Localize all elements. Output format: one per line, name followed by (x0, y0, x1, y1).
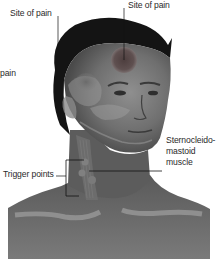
anatomy-figure: Site of pain Site of pain pain Sternocle… (0, 0, 218, 259)
label-sternocleidomastoid: Sternocleido- mastoid muscle (166, 135, 218, 168)
label-trigger-points: Trigger points (3, 169, 54, 180)
trigger-point-2 (79, 170, 86, 177)
label-muscle-line2: mastoid (166, 146, 218, 157)
pain-site-temple (75, 73, 97, 91)
label-site-of-pain-right: Site of pain (128, 0, 170, 11)
eye-left (114, 90, 126, 95)
label-muscle-line3: muscle (166, 157, 218, 168)
label-site-of-pain-left: Site of pain (10, 8, 52, 19)
clavicle-right (122, 210, 202, 214)
trigger-point-3 (88, 176, 96, 184)
label-pain-partial: pain (0, 68, 16, 79)
anatomy-illustration (0, 0, 218, 259)
trigger-point-1 (82, 159, 89, 166)
label-muscle-line1: Sternocleido- (166, 135, 218, 146)
eye-right (148, 91, 158, 96)
